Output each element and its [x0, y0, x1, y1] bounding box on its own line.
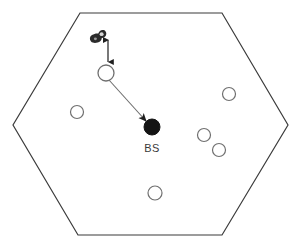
base-station-marker[interactable]	[144, 119, 160, 135]
diagram-canvas: BS	[0, 0, 303, 245]
user-node-upper-right[interactable]	[223, 88, 236, 101]
base-station-label: BS	[144, 142, 159, 154]
user-node-lower-right[interactable]	[213, 144, 226, 157]
user-node-mid-right[interactable]	[198, 129, 211, 142]
user-node-served[interactable]	[98, 65, 114, 81]
network-cell-diagram: BS	[0, 0, 303, 245]
user-node-bottom[interactable]	[148, 186, 162, 200]
user-node-left[interactable]	[71, 106, 84, 119]
